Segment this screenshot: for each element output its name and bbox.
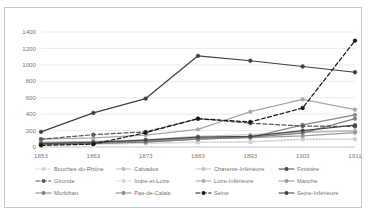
y-axis-tick-label: 1200	[22, 45, 36, 52]
legend-item[interactable]: Pas-de-Calais	[115, 187, 195, 199]
legend-key-icon	[278, 189, 295, 197]
x-axis-tick-label: 1893	[243, 152, 257, 159]
series-line	[39, 54, 357, 134]
data-point-marker	[196, 135, 200, 139]
y-axis-tick-label: 600	[26, 94, 37, 101]
data-point-marker	[353, 113, 357, 117]
data-point-marker	[353, 39, 357, 43]
x-axis-tick-label: 1903	[296, 152, 310, 159]
data-point-marker	[301, 65, 305, 69]
y-axis-tick-label: 0	[33, 143, 37, 150]
data-point-marker	[144, 131, 148, 135]
legend-key-icon	[115, 177, 132, 185]
data-point-marker	[301, 106, 305, 110]
legend-key-icon	[195, 165, 212, 173]
legend-item[interactable]: Charente-Inférieure	[195, 163, 278, 175]
legend-label: Charente-Inférieure	[214, 165, 264, 173]
data-point-marker	[39, 143, 43, 147]
legend-item[interactable]: Calvados	[115, 163, 195, 175]
legend-label: Calvados	[134, 165, 158, 173]
data-point-marker	[196, 117, 200, 121]
legend-label: Indre-et-Loire	[134, 177, 169, 185]
x-axis-tick-label: 1911	[348, 152, 362, 159]
data-point-marker	[196, 127, 200, 131]
x-axis-tick-label: 1853	[34, 152, 48, 159]
legend-key-icon	[278, 177, 295, 185]
legend-label: Loire-Inférieure	[214, 177, 254, 185]
legend-key-icon	[278, 165, 295, 173]
legend-key-icon	[195, 189, 212, 197]
x-axis-tick-label: 1863	[86, 152, 100, 159]
legend-key-icon	[35, 189, 52, 197]
legend-key-icon	[195, 177, 212, 185]
chart-container: 0200400600800100012001400185318631873188…	[4, 7, 362, 208]
legend-row: Bouches-du-Rhône Calvados Charente-Infér…	[19, 163, 351, 175]
data-point-marker	[39, 137, 43, 141]
data-point-marker	[353, 117, 357, 121]
legend-item[interactable]: Seine	[195, 187, 278, 199]
legend-item[interactable]: Morbihan	[19, 187, 115, 199]
legend-row: Morbihan Pas-de-Calais Seine Seine-Infér…	[19, 187, 351, 199]
x-axis-tick-label: 1873	[139, 152, 153, 159]
y-axis-tick-label: 400	[26, 110, 37, 117]
legend-label: Manche	[297, 177, 318, 185]
chart-legend: Bouches-du-Rhône Calvados Charente-Infér…	[19, 163, 351, 205]
legend-row: Gironde Indre-et-Loire Loire-Inférieure …	[19, 175, 351, 187]
data-point-marker	[91, 111, 95, 115]
legend-item[interactable]: Loire-Inférieure	[195, 175, 278, 187]
data-point-marker	[248, 140, 252, 144]
legend-item[interactable]: Gironde	[19, 175, 115, 187]
legend-key-icon	[115, 165, 132, 173]
data-point-marker	[248, 120, 252, 124]
legend-item[interactable]: Finistère	[278, 163, 351, 175]
y-axis-tick-label: 200	[26, 127, 37, 134]
data-point-marker	[353, 131, 357, 135]
data-point-marker	[353, 123, 357, 127]
data-point-marker	[353, 108, 357, 112]
data-point-marker	[301, 124, 305, 128]
data-point-marker	[301, 129, 305, 133]
data-point-marker	[144, 97, 148, 101]
legend-item[interactable]: Manche	[278, 175, 351, 187]
data-point-marker	[196, 54, 200, 58]
data-point-marker	[248, 134, 252, 138]
legend-label: Bouches-du-Rhône	[54, 165, 104, 173]
legend-label: Gironde	[54, 177, 75, 185]
legend-label: Seine	[214, 189, 229, 197]
data-point-marker	[301, 97, 305, 101]
data-point-marker	[248, 110, 252, 114]
x-axis-tick-label: 1883	[191, 152, 205, 159]
legend-label: Finistère	[297, 165, 319, 173]
y-axis-tick-label: 1000	[22, 61, 36, 68]
legend-key-icon	[35, 165, 52, 173]
legend-item[interactable]: Seine-Inférieure	[278, 187, 351, 199]
data-point-marker	[144, 138, 148, 142]
data-point-marker	[353, 137, 357, 141]
y-axis-tick-label: 800	[26, 77, 37, 84]
legend-key-icon	[35, 177, 52, 185]
legend-label: Seine-Inférieure	[297, 189, 338, 197]
legend-item[interactable]: Bouches-du-Rhône	[19, 163, 115, 175]
data-point-marker	[39, 130, 43, 134]
legend-key-icon	[115, 189, 132, 197]
legend-label: Pas-de-Calais	[134, 189, 170, 197]
data-point-marker	[353, 70, 357, 74]
data-point-marker	[91, 142, 95, 146]
data-point-marker	[248, 59, 252, 63]
legend-label: Morbihan	[54, 189, 78, 197]
legend-item[interactable]: Indre-et-Loire	[115, 175, 195, 187]
data-point-marker	[91, 133, 95, 137]
y-axis-tick-label: 1400	[22, 28, 36, 35]
